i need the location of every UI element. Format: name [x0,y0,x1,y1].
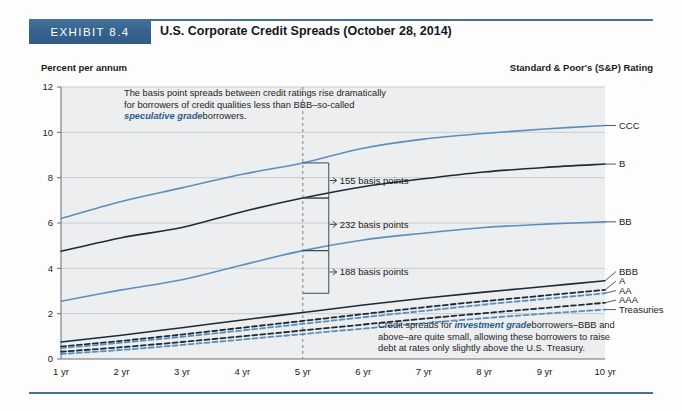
annotation-bottom-line3: debt at rates only slightly above the U.… [378,343,585,353]
annotation-bottom-emphasis: investment grade [454,320,531,330]
series-label-b: B [619,158,625,169]
annotation-speculative-grade: The basis point spreads between credit r… [124,88,390,123]
y-tick-label: 0 [48,353,53,364]
x-tick-label: 7 yr [416,366,432,377]
annotation-bottom-line2: above–are quite small, allowing these bo… [378,332,610,342]
x-tick-label: 2 yr [114,366,130,377]
x-tick-label: 8 yr [476,366,492,377]
x-tick-label: 6 yr [355,366,371,377]
series-leader-a [605,281,616,290]
annotation-top-line1: The basis point spreads between credit r… [124,88,386,98]
callout-155-label: 155 basis points [340,175,409,186]
x-tick-label: 3 yr [174,366,190,377]
x-tick-label: 4 yr [234,366,250,377]
series-label-bb: BB [619,216,632,227]
annotation-bottom-lead: Credit spreads for [378,320,452,330]
x-tick-label: 10 yr [594,366,615,377]
y-tick-label: 2 [48,308,53,319]
annotation-top-line3-tail: borrowers. [203,111,247,121]
y-tick-label: 12 [42,81,53,92]
annotation-bottom-line1-tail: borrowers–BBB and [531,320,614,330]
x-tick-label: 1 yr [53,366,69,377]
callout-232-label: 232 basis points [340,219,409,230]
callout-188-label: 188 basis points [340,266,409,277]
annotation-investment-grade: Credit spreads for investment gradeborro… [378,320,626,355]
series-leader-bbb [605,272,616,281]
footer-rule [29,392,653,394]
annotation-top-emphasis: speculative grade [124,111,203,121]
series-leader-aa [605,291,616,294]
series-leader-aaa [605,300,616,303]
x-tick-label: 5 yr [295,366,311,377]
annotation-top-line2: for borrowers of credit qualities less t… [124,100,354,110]
y-tick-label: 6 [48,217,53,228]
series-label-treasuries: Treasuries [619,304,664,315]
exhibit-page: EXHIBIT 8.4 U.S. Corporate Credit Spread… [0,0,682,411]
x-tick-label: 9 yr [537,366,553,377]
y-tick-label: 10 [42,127,53,138]
y-tick-label: 4 [48,263,53,274]
y-tick-label: 8 [48,172,53,183]
series-label-ccc: CCC [619,120,640,131]
